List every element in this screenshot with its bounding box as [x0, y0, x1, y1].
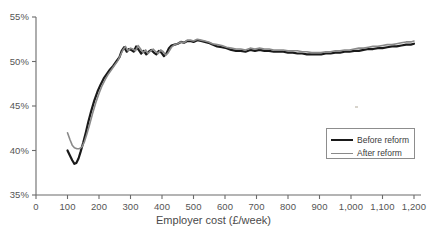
legend-swatch-after-reform — [331, 153, 353, 154]
x-axis-title: Employer cost (£/week) — [0, 214, 427, 226]
y-tick-label: 45% — [0, 100, 29, 111]
axis-ticks — [32, 17, 414, 199]
y-tick-label: 50% — [0, 56, 29, 67]
legend-swatch-before-reform — [331, 139, 353, 141]
y-tick-label: 55% — [0, 11, 29, 22]
chart-legend: Before reform After reform — [326, 128, 415, 159]
legend-label-before-reform: Before reform — [357, 136, 409, 145]
plot-area — [0, 0, 427, 235]
legend-item-before-reform: Before reform — [331, 134, 409, 146]
legend-item-after-reform: After reform — [331, 147, 402, 159]
y-tick-label: 35% — [0, 189, 29, 200]
scan-artifact-speck — [355, 106, 358, 108]
y-tick-label: 40% — [0, 145, 29, 156]
line-chart: 35%40%45%50%55% 010020030040050060070080… — [0, 0, 427, 235]
legend-label-after-reform: After reform — [357, 149, 402, 158]
x-tick-label: 1,200 — [394, 201, 427, 212]
